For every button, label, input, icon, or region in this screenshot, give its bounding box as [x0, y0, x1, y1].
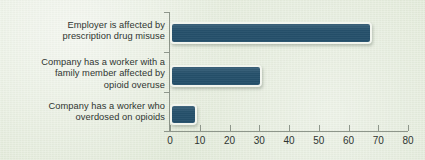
y-axis-tick-2: [164, 92, 170, 93]
bar-employer-affected: [170, 22, 372, 44]
category-label-employer-affected: Employer is affected by prescription dru…: [0, 20, 165, 43]
y-axis-tick-bottom: [164, 131, 170, 132]
x-axis-tick-80: [408, 125, 409, 131]
bar-texture: [172, 106, 195, 123]
bar-texture: [172, 24, 370, 42]
x-axis-tick-60: [349, 125, 350, 131]
x-axis-tick-label-30: 30: [246, 135, 272, 146]
x-axis-tick-label-60: 60: [336, 135, 362, 146]
y-axis-tick-1: [164, 52, 170, 53]
category-label-worker-overdosed: Company has a worker who overdosed on op…: [0, 101, 165, 124]
x-axis-tick-label-40: 40: [276, 135, 302, 146]
x-axis-tick-20: [230, 125, 231, 131]
x-axis-tick-label-80: 80: [395, 135, 421, 146]
x-axis-tick-label-70: 70: [365, 135, 391, 146]
x-axis-tick-10: [200, 125, 201, 131]
x-axis-tick-70: [378, 125, 379, 131]
x-axis-tick-0: [170, 125, 171, 131]
bar-family-member-affected: [170, 65, 262, 87]
y-axis-tick-top: [164, 12, 170, 13]
bar-chart: Employer is affected by prescription dru…: [0, 0, 425, 160]
x-axis-line: [169, 131, 408, 132]
x-axis-tick-label-10: 10: [187, 135, 213, 146]
category-label-family-member-affected: Company has a worker with a family membe…: [0, 57, 165, 91]
x-axis-tick-label-50: 50: [306, 135, 332, 146]
x-axis-tick-50: [319, 125, 320, 131]
x-axis-tick-30: [259, 125, 260, 131]
bar-texture: [172, 67, 260, 85]
bar-worker-overdosed: [170, 104, 197, 125]
x-axis-tick-40: [289, 125, 290, 131]
x-axis-tick-label-0: 0: [157, 135, 183, 146]
x-axis-tick-label-20: 20: [217, 135, 243, 146]
